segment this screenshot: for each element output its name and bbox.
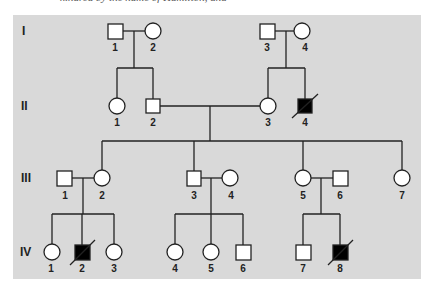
generation-label-I: I — [22, 24, 25, 38]
label-III-5: 5 — [300, 190, 306, 201]
label-II-2: 2 — [150, 117, 156, 128]
female-symbol-III-5 — [295, 170, 311, 186]
label-III-7: 7 — [399, 190, 405, 201]
label-III-2: 2 — [99, 190, 105, 201]
male-symbol-II-2 — [146, 99, 160, 113]
label-I-2: 2 — [150, 42, 156, 53]
female-symbol-III-7 — [394, 170, 410, 186]
label-I-3: 3 — [264, 42, 270, 53]
female-symbol-II-3 — [260, 98, 276, 114]
male-symbol-III-6 — [333, 171, 348, 186]
female-symbol-II-1 — [109, 98, 125, 114]
connector-lines — [52, 31, 402, 245]
label-IV-6: 6 — [240, 263, 246, 274]
female-symbol-IV-1 — [44, 244, 60, 260]
symbols — [44, 23, 410, 265]
label-III-1: 1 — [62, 190, 68, 201]
label-II-4: 4 — [302, 117, 308, 128]
label-III-4: 4 — [228, 190, 234, 201]
male-symbol-I-3 — [260, 24, 275, 39]
label-III-6: 6 — [337, 190, 343, 201]
label-IV-5: 5 — [208, 263, 214, 274]
female-symbol-IV-3 — [106, 244, 122, 260]
label-I-1: 1 — [112, 42, 118, 53]
female-symbol-III-2 — [94, 170, 110, 186]
label-IV-1: 1 — [48, 263, 54, 274]
female-symbol-III-4 — [222, 170, 238, 186]
male-symbol-III-3 — [187, 171, 201, 186]
female-symbol-IV-4 — [167, 244, 183, 260]
pedigree-chart: I II III IV 1 2 3 — [0, 0, 431, 292]
label-IV-7: 7 — [300, 263, 306, 274]
male-symbol-IV-7 — [296, 245, 311, 260]
label-IV-3: 3 — [111, 263, 117, 274]
female-symbol-IV-5 — [203, 244, 219, 260]
male-symbol-IV-6 — [236, 245, 251, 260]
male-symbol-III-1 — [57, 171, 72, 186]
label-III-3: 3 — [191, 190, 197, 201]
female-symbol-I-2 — [145, 23, 161, 39]
male-symbol-I-1 — [108, 24, 123, 39]
label-IV-2: 2 — [79, 263, 85, 274]
generation-label-II: II — [21, 99, 28, 113]
label-IV-8: 8 — [337, 263, 343, 274]
label-I-4: 4 — [302, 42, 308, 53]
generation-label-III: III — [21, 171, 31, 185]
label-II-1: 1 — [114, 117, 120, 128]
generation-label-IV: IV — [20, 245, 31, 259]
label-IV-4: 4 — [172, 263, 178, 274]
female-symbol-I-4 — [294, 23, 310, 39]
label-II-3: 3 — [265, 117, 271, 128]
